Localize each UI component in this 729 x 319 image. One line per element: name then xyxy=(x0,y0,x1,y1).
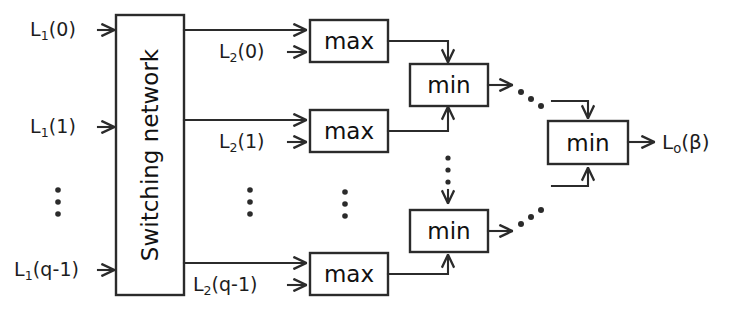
diagram-canvas: Switching network L1(0) L1(1) L1(q-1) L2… xyxy=(0,0,729,319)
ellipsis-bottom-diagonal xyxy=(518,207,544,227)
mid-label-q1: L2(q-1) xyxy=(193,275,257,297)
ellipsis-min-feed xyxy=(445,155,450,203)
min-block-bottom xyxy=(410,210,488,252)
input-label-1-base: L xyxy=(30,115,41,137)
input-label-1-arg: (1) xyxy=(49,115,76,137)
output-label: Lo(β) xyxy=(662,132,710,155)
mid-label-1: L2(1) xyxy=(219,132,265,154)
max-block-q1 xyxy=(310,253,388,295)
input-label-q1-subscript: 1 xyxy=(25,268,33,283)
mid-label-q1-subscript: 2 xyxy=(204,283,212,298)
mid-label-q1-arg: (q-1) xyxy=(212,273,258,295)
input-label-q1-base: L xyxy=(14,258,25,280)
input-label-0: L1(0) xyxy=(30,20,76,42)
input-label-1: L1(1) xyxy=(30,117,76,139)
mid-label-0: L2(0) xyxy=(219,42,265,64)
mid-label-0-arg: (0) xyxy=(238,40,265,62)
lower-feed-to-min-final-wire xyxy=(552,168,588,186)
input-label-0-arg: (0) xyxy=(49,18,76,40)
input-label-0-base: L xyxy=(30,18,41,40)
input-label-0-subscript: 1 xyxy=(41,28,49,43)
input-label-q1: L1(q-1) xyxy=(14,260,79,282)
mid-label-1-subscript: 2 xyxy=(230,140,238,155)
min-block-top xyxy=(410,64,488,106)
input-label-1-subscript: 1 xyxy=(41,125,49,140)
switching-network-box xyxy=(116,15,184,295)
upper-feed-to-min-final-wire xyxy=(552,101,588,118)
ellipsis-inputs-dots xyxy=(55,187,61,217)
max-block-0 xyxy=(310,20,388,62)
ellipsis-max-dots xyxy=(342,189,348,219)
input-label-q1-arg: (q-1) xyxy=(33,258,79,280)
ellipsis-mid-dots xyxy=(247,187,253,217)
mid-label-0-base: L xyxy=(219,40,230,62)
max0-to-min-top-wire xyxy=(388,41,448,62)
mid-label-q1-base: L xyxy=(193,273,204,295)
mid-label-1-arg: (1) xyxy=(238,130,265,152)
maxq1-to-min-bottom-wire xyxy=(388,255,448,274)
mid-label-0-subscript: 2 xyxy=(230,50,238,65)
max-block-1 xyxy=(310,110,388,152)
min-block-final xyxy=(548,121,628,164)
ellipsis-top-diagonal xyxy=(518,89,544,109)
output-label-base: L xyxy=(662,130,673,154)
mid-label-1-base: L xyxy=(219,130,230,152)
diagram-svg xyxy=(0,0,729,319)
max1-to-min-top-wire xyxy=(388,107,448,131)
output-label-arg: (β) xyxy=(681,130,709,154)
